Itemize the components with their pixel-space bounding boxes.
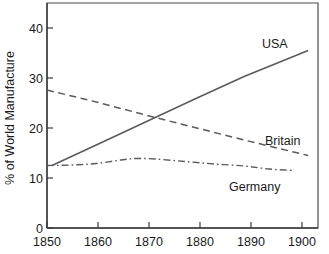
x-tick-label: 1850 [33, 235, 61, 249]
y-tick-label: 20 [29, 122, 43, 136]
y-tick-label: 0 [36, 222, 43, 236]
series-annotations: USA Britain Germany [229, 37, 300, 194]
series-label-usa: USA [262, 37, 288, 51]
series-label-britain: Britain [265, 134, 300, 148]
x-tick-label: 1890 [237, 235, 265, 249]
series-lines [47, 51, 308, 171]
x-axis-ticks [47, 222, 302, 228]
series-label-germany: Germany [229, 180, 281, 194]
y-axis-title: % of World Manufacture [3, 51, 17, 185]
series-line-germany [47, 158, 293, 170]
x-axis-tick-labels: 1850 1860 1870 1880 1890 1900 [33, 235, 316, 249]
y-axis-ticks [47, 28, 53, 228]
y-tick-label: 10 [29, 172, 43, 186]
series-line-usa [52, 51, 308, 166]
chart-container: 0 10 20 30 40 1850 1860 1870 1880 1890 1… [0, 0, 329, 254]
y-tick-label: 40 [29, 22, 43, 36]
x-tick-label: 1880 [186, 235, 214, 249]
y-axis-tick-labels: 0 10 20 30 40 [29, 22, 43, 236]
x-tick-label: 1900 [288, 235, 316, 249]
x-tick-label: 1860 [84, 235, 112, 249]
x-tick-label: 1870 [135, 235, 163, 249]
y-tick-label: 30 [29, 72, 43, 86]
chart-svg: 0 10 20 30 40 1850 1860 1870 1880 1890 1… [0, 0, 329, 254]
